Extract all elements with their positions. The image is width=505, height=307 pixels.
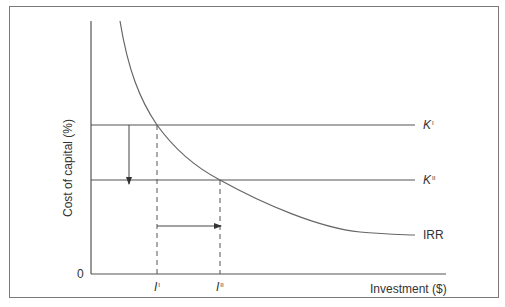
k2-label: KII <box>423 174 435 186</box>
origin-label: 0 <box>77 268 84 280</box>
k1-label: KI <box>423 119 434 131</box>
k1-subscript: I <box>432 120 434 126</box>
i1-symbol: I <box>154 280 157 294</box>
i1-subscript: I <box>158 282 160 288</box>
irr-label: IRR <box>423 229 444 241</box>
y-axis-label: Cost of capital (%) <box>61 119 75 217</box>
diagram-canvas <box>0 0 505 307</box>
k2-subscript: II <box>432 175 435 181</box>
x-axis-label: Investment ($) <box>370 283 447 295</box>
i2-label: III <box>216 281 224 293</box>
k2-symbol: K <box>423 173 431 187</box>
irr-curve <box>120 21 415 235</box>
i1-label: II <box>154 281 160 293</box>
i2-symbol: I <box>216 280 219 294</box>
i2-subscript: II <box>220 282 223 288</box>
k1-symbol: K <box>423 118 431 132</box>
